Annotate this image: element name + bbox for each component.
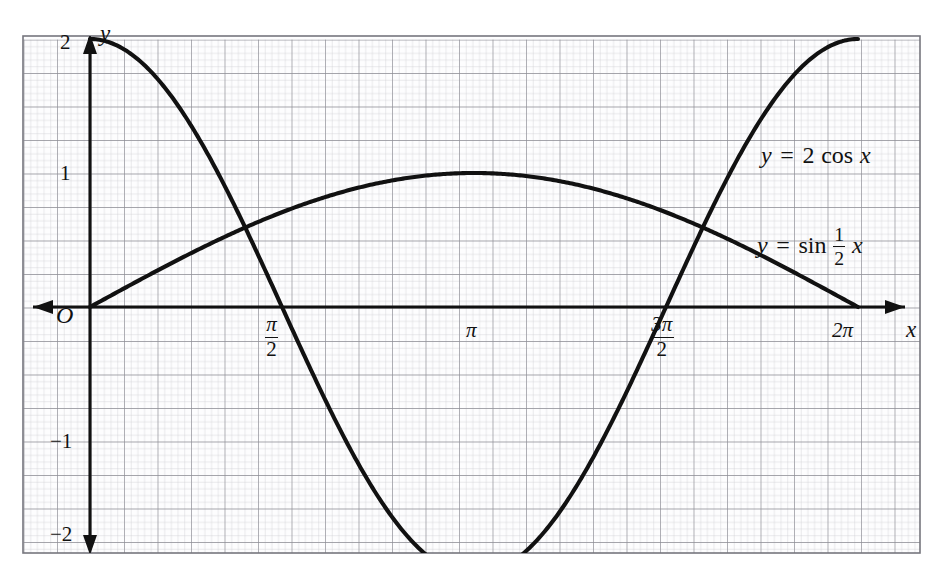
- y-tick-label-1: 1: [60, 163, 71, 184]
- x-tick-label-pi-over-2: π 2: [265, 316, 278, 363]
- grid-paper: [23, 36, 920, 553]
- x-axis-name: x: [906, 318, 916, 341]
- graph-canvas: [0, 0, 944, 581]
- fraction-3pi-over-2: 3π 2: [650, 314, 674, 361]
- curve-label-sin-half-x: y=sin12x: [757, 226, 863, 270]
- curve-label-2cosx: y=2cosx: [761, 143, 871, 167]
- y-tick-label-2: 2: [60, 32, 71, 53]
- y-axis-name: y: [100, 22, 110, 45]
- graph-figure: y x O 2 1 −1 −2 π 2 π 3π 2 2π y=2cosx y=…: [0, 0, 944, 581]
- x-tick-label-2pi: 2π: [832, 320, 853, 341]
- x-tick-label-3pi-over-2: 3π 2: [650, 316, 674, 363]
- y-tick-label-minus-2: −2: [50, 524, 72, 545]
- origin-label: O: [56, 303, 73, 327]
- fraction-pi-over-2: π 2: [265, 314, 278, 361]
- y-tick-label-minus-1: −1: [50, 431, 72, 452]
- fraction-one-half: 12: [833, 224, 845, 268]
- x-tick-label-pi: π: [466, 320, 477, 341]
